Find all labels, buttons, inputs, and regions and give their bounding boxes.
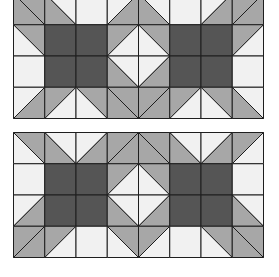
quilt-cell — [170, 164, 201, 195]
quilt-cell — [76, 195, 107, 226]
quilt-cell — [76, 0, 107, 25]
quilt-cell — [139, 0, 170, 25]
quilt-cell — [232, 87, 263, 118]
quilt-cell — [201, 25, 232, 56]
quilt-cell — [201, 195, 232, 226]
quilt-cell — [76, 226, 107, 257]
quilt-cell — [139, 56, 170, 87]
quilt-cell — [139, 164, 170, 195]
top-quilt-panel — [13, 0, 264, 121]
quilt-cell — [170, 195, 201, 226]
quilt-cell — [45, 226, 76, 257]
quilt-cell — [14, 25, 45, 56]
quilt-cell — [45, 87, 76, 118]
quilt-cell — [232, 164, 263, 195]
quilt-cell — [139, 25, 170, 56]
quilt-cell — [170, 87, 201, 118]
quilt-cell — [232, 195, 263, 226]
quilt-cell — [232, 226, 263, 257]
quilt-cell — [45, 133, 76, 164]
quilt-cell — [201, 164, 232, 195]
quilt-cell — [232, 56, 263, 87]
quilt-cell — [232, 133, 263, 164]
quilt-cell — [107, 226, 138, 257]
quilt-cell — [170, 226, 201, 257]
quilt-cell — [76, 25, 107, 56]
quilt-cell — [201, 133, 232, 164]
quilt-cell — [139, 226, 170, 257]
quilt-cell — [170, 25, 201, 56]
quilt-cell — [170, 0, 201, 25]
quilt-cell — [139, 87, 170, 118]
quilt-cell — [107, 195, 138, 226]
quilt-cell — [14, 133, 45, 164]
quilt-cell — [107, 56, 138, 87]
quilt-cell — [107, 87, 138, 118]
quilt-cell — [232, 0, 263, 25]
quilt-cell — [201, 87, 232, 118]
quilt-cell — [139, 133, 170, 164]
quilt-cell — [14, 0, 45, 25]
quilt-cell — [232, 25, 263, 56]
quilt-cell — [14, 164, 45, 195]
quilt-cell — [45, 25, 76, 56]
quilt-cell — [14, 226, 45, 257]
quilt-cell — [201, 0, 232, 25]
quilt-cell — [76, 56, 107, 87]
quilt-cell — [76, 87, 107, 118]
quilt-cell — [170, 133, 201, 164]
quilt-cell — [107, 133, 138, 164]
quilt-cell — [76, 133, 107, 164]
quilt-cell — [201, 226, 232, 257]
quilt-cell — [45, 0, 76, 25]
quilt-cell — [76, 164, 107, 195]
quilt-cell — [107, 164, 138, 195]
quilt-cell — [45, 195, 76, 226]
quilt-cell — [45, 56, 76, 87]
quilt-cell — [14, 56, 45, 87]
quilt-cell — [14, 87, 45, 118]
quilt-cell — [139, 195, 170, 226]
quilt-cell — [14, 195, 45, 226]
bottom-quilt-panel — [13, 132, 264, 260]
quilt-cell — [170, 56, 201, 87]
quilt-cell — [45, 164, 76, 195]
quilt-cell — [107, 0, 138, 25]
quilt-cell — [107, 25, 138, 56]
quilt-cell — [201, 56, 232, 87]
